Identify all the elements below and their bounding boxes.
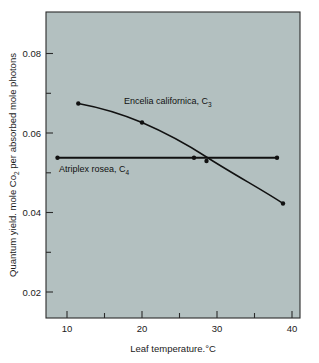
data-point (192, 156, 196, 160)
annotation-encelia-text: Encelia californica, C (124, 96, 209, 106)
y-axis-title: Quantum yield. mole Co2 per absorbed mol… (7, 53, 20, 277)
x-tick-label-1: 20 (137, 323, 148, 334)
data-point (140, 120, 144, 124)
data-point (55, 156, 59, 160)
annotation-atriplex-text: Atriplex rosea, C (59, 164, 126, 174)
x-tick-label-2: 30 (212, 323, 223, 334)
y-axis-title-before: Quantum yield. mole Co (7, 175, 18, 277)
y-tick-label-1: 0.06 (23, 128, 42, 139)
x-axis-title: Leaf temperature.°C (130, 343, 216, 354)
data-point (76, 101, 80, 105)
svg-text:Quantum yield. mole Co2 per ab: Quantum yield. mole Co2 per absorbed mol… (7, 53, 20, 277)
y-axis-title-after: per absorbed mole photons (7, 53, 18, 172)
data-point (204, 159, 208, 163)
x-tick-label-3: 40 (287, 323, 298, 334)
x-tick-label-0: 10 (62, 323, 73, 334)
data-point (275, 156, 279, 160)
annotation-atriplex-subscript: 4 (126, 169, 130, 176)
y-tick-label-2: 0.04 (23, 207, 42, 218)
annotation-encelia-californica: Encelia californica, C3 (124, 96, 212, 108)
y-tick-label-0: 0.08 (23, 48, 42, 59)
annotation-encelia-subscript: 3 (208, 101, 212, 108)
quantum-yield-chart: 0.08 0.06 0.04 0.02 10 20 30 40 Leaf tem… (0, 0, 319, 363)
data-point (281, 201, 285, 205)
annotation-atriplex-rosea: Atriplex rosea, C4 (59, 164, 130, 176)
figure-container: 0.08 0.06 0.04 0.02 10 20 30 40 Leaf tem… (0, 0, 319, 363)
y-tick-label-3: 0.02 (23, 287, 42, 298)
